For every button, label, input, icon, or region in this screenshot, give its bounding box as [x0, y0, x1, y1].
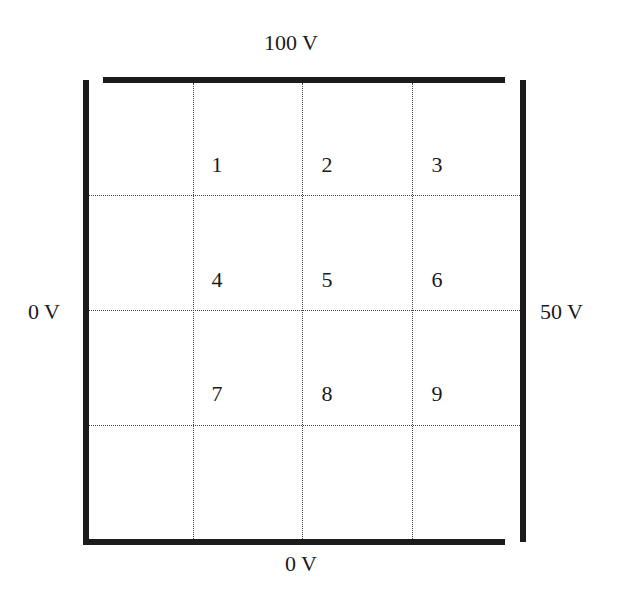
grid-point-4: 4 — [212, 269, 223, 291]
grid-point-1: 1 — [212, 154, 223, 176]
grid-point-7: 7 — [212, 383, 223, 405]
grid-line-vertical-3 — [412, 83, 413, 539]
left-plate-voltage-label: 0 V — [28, 301, 60, 323]
grid-line-horizontal-2 — [89, 310, 520, 311]
left-plate — [83, 80, 89, 545]
grid-line-horizontal-1 — [89, 195, 520, 196]
top-plate — [103, 77, 505, 83]
right-plate-voltage-label: 50 V — [540, 301, 583, 323]
bottom-plate — [83, 539, 505, 545]
grid-line-horizontal-3 — [89, 425, 520, 426]
grid-point-9: 9 — [432, 383, 443, 405]
grid-point-2: 2 — [322, 154, 333, 176]
grid-line-vertical-1 — [193, 83, 194, 539]
right-plate — [520, 80, 526, 542]
grid-point-8: 8 — [322, 383, 333, 405]
grid-point-6: 6 — [432, 269, 443, 291]
grid-point-3: 3 — [432, 154, 443, 176]
top-plate-voltage-label: 100 V — [264, 32, 318, 54]
grid-point-5: 5 — [322, 269, 333, 291]
bottom-plate-voltage-label: 0 V — [285, 553, 317, 575]
grid-line-vertical-2 — [302, 83, 303, 539]
